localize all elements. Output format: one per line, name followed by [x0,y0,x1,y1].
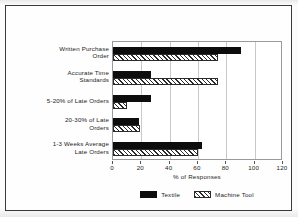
legend-swatch-textile [140,191,157,198]
tick-label: 60 [193,164,200,171]
legend-item: Textile [140,191,180,198]
chart-legend: TextileMachine Tool [112,188,282,200]
category-label: Written Purchase Order [59,45,109,60]
gridline [226,42,227,159]
tick-label: 40 [165,164,172,171]
category-axis-labels: Written Purchase OrderAccurate Time Stan… [8,41,109,160]
bar-machine-tool [113,78,218,85]
bar-textile [113,118,139,125]
legend-swatch-machine-tool [194,191,211,198]
legend-label: Machine Tool [215,191,254,198]
category-label: Accurate Time Standards [68,69,110,84]
bar-textile [113,71,151,78]
category-label: 5-20% of Late Orders [47,97,109,105]
x-axis-ticks: 020406080100120 [112,161,282,171]
tick-label: 0 [110,164,114,171]
plot-area [112,41,282,160]
category-label: 20-30% of Late Orders [65,116,109,131]
tick-label: 80 [222,164,229,171]
bar-machine-tool [113,149,198,156]
x-axis-title: % of Responses [112,173,282,180]
tick-label: 20 [137,164,144,171]
bar-textile [113,47,241,54]
legend-item: Machine Tool [194,191,254,198]
legend-label: Textile [161,191,180,198]
bar-textile [113,95,151,102]
chart-figure: Written Purchase OrderAccurate Time Stan… [0,0,298,217]
category-label: 1-3 Weeks Average Late Orders [53,140,109,155]
bar-machine-tool [113,102,127,109]
bar-machine-tool [113,54,218,61]
bar-textile [113,142,202,149]
tick-label: 120 [277,164,288,171]
gridline [255,42,256,159]
tick-label: 100 [248,164,259,171]
bar-machine-tool [113,125,140,132]
